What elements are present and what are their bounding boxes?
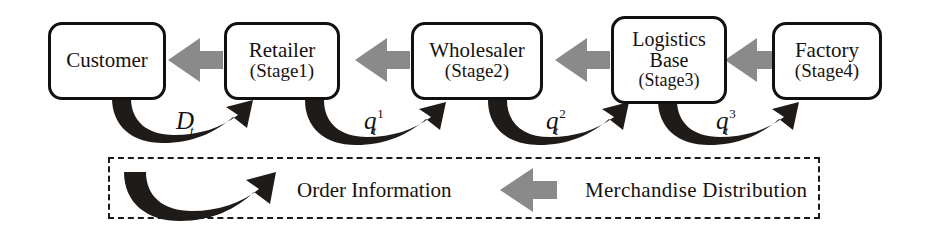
node-logistics-label-line2: Base — [650, 50, 689, 71]
legend-merchandise-distribution-label: Merchandise Distribution — [585, 178, 807, 203]
flow-label-order-3-sup: 3 — [729, 106, 736, 121]
node-customer[interactable]: Customer — [48, 22, 166, 100]
legend-order-information-label: Order Information — [297, 178, 452, 203]
node-customer-label: Customer — [66, 50, 148, 72]
flow-label-order-3: qt3 — [716, 108, 739, 133]
node-wholesaler[interactable]: Wholesaler (Stage2) — [411, 22, 543, 100]
flow-label-demand: Dt — [176, 108, 198, 133]
node-retailer-stage: (Stage1) — [250, 61, 314, 82]
node-factory[interactable]: Factory (Stage4) — [772, 22, 882, 100]
flow-label-order-2-sub: t — [555, 123, 559, 138]
node-factory-stage: (Stage4) — [795, 61, 859, 82]
node-retailer-label: Retailer — [249, 40, 315, 62]
node-retailer[interactable]: Retailer (Stage1) — [224, 22, 340, 100]
node-wholesaler-stage: (Stage2) — [445, 61, 509, 82]
flow-label-order-2: qt2 — [546, 108, 569, 133]
node-wholesaler-label: Wholesaler — [429, 40, 525, 62]
flow-label-order-3-sub: t — [725, 123, 729, 138]
flow-label-order-1: qt1 — [364, 108, 387, 133]
flow-label-order-2-sup: 2 — [559, 106, 566, 121]
flow-label-order-1-sup: 1 — [377, 106, 384, 121]
merchandise-arrow-logistics-to-wholesaler — [555, 38, 610, 82]
node-logistics-stage: (Stage3) — [639, 71, 700, 91]
merchandise-arrow-retailer-to-customer — [168, 38, 223, 82]
supply-chain-diagram: Customer Retailer (Stage1) Wholesaler (S… — [0, 0, 925, 238]
node-logistics-label-line1: Logistics — [632, 29, 705, 50]
node-logistics-base[interactable]: Logistics Base (Stage3) — [611, 16, 727, 104]
merchandise-arrow-wholesaler-to-retailer — [355, 38, 410, 82]
flow-label-order-1-sub: t — [373, 123, 377, 138]
node-factory-label: Factory — [795, 40, 859, 62]
flow-label-demand-sub: t — [190, 123, 194, 138]
